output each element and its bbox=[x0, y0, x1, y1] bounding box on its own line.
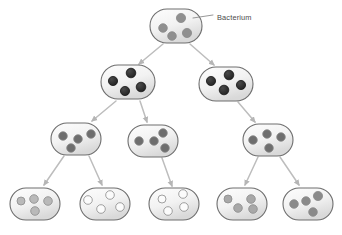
plasmid-dot-4 bbox=[31, 207, 40, 216]
plasmid-dot-4 bbox=[249, 205, 258, 214]
cell-membrane bbox=[149, 188, 199, 220]
plasmid-dot-2 bbox=[179, 190, 188, 199]
bacterium-label: Bacterium bbox=[217, 13, 252, 22]
cell-layer bbox=[10, 9, 333, 220]
cell-membrane bbox=[217, 188, 267, 220]
plasmid-dot-2 bbox=[234, 204, 243, 213]
plasmid-dot-3 bbox=[219, 85, 229, 95]
plasmid-dot-1 bbox=[17, 197, 25, 205]
cell-g2-1 bbox=[101, 65, 155, 99]
plasmid-dot-3 bbox=[164, 207, 173, 216]
plasmid-dot-3 bbox=[247, 195, 256, 204]
arrow-g3-3-to-g4-4 bbox=[245, 157, 258, 185]
plasmid-dot-3 bbox=[168, 32, 177, 41]
plasmid-dot-3 bbox=[97, 205, 106, 214]
plasmid-dot-4 bbox=[182, 28, 191, 37]
cell-g3-3 bbox=[243, 124, 293, 156]
plasmid-dot-3 bbox=[277, 133, 286, 142]
arrow-g3-2-to-g4-3 bbox=[162, 158, 172, 186]
arrow-g3-1-to-g4-2 bbox=[89, 156, 102, 185]
cell-g2-2 bbox=[199, 67, 253, 101]
plasmid-dot-2 bbox=[224, 70, 234, 80]
plasmid-dot-1 bbox=[108, 76, 117, 85]
annotation-layer: Bacterium bbox=[193, 13, 252, 22]
cell-g4-4 bbox=[217, 188, 267, 220]
cell-g4-1 bbox=[10, 188, 60, 220]
plasmid-dot-1 bbox=[159, 24, 168, 33]
plasmid-dot-4 bbox=[136, 82, 146, 92]
plasmid-dot-3 bbox=[120, 86, 129, 95]
plasmid-dot-1 bbox=[224, 195, 232, 203]
arrow-g2-1-to-g3-1 bbox=[92, 101, 116, 121]
cell-g4-2 bbox=[80, 188, 130, 220]
plasmid-dot-2 bbox=[176, 13, 185, 22]
plasmid-dot-4 bbox=[309, 208, 318, 217]
arrow-g1-1-to-g2-1 bbox=[139, 44, 163, 64]
plasmid-dot-3 bbox=[159, 129, 168, 138]
plasmid-dot-4 bbox=[116, 203, 125, 212]
arrow-g3-3-to-g4-5 bbox=[280, 157, 299, 185]
cell-g4-3 bbox=[149, 188, 199, 220]
arrow-g1-1-to-g2-2 bbox=[190, 44, 214, 65]
plasmid-dot-4 bbox=[161, 144, 170, 153]
plasmid-dot-2 bbox=[263, 130, 272, 139]
cell-g1-1 bbox=[150, 9, 202, 43]
plasmid-dot-1 bbox=[135, 137, 144, 146]
plasmid-dot-1 bbox=[206, 76, 215, 85]
plasmid-dot-1 bbox=[84, 196, 93, 205]
plasmid-dot-2 bbox=[126, 68, 136, 78]
cell-g3-1 bbox=[51, 123, 101, 155]
plasmid-dot-3 bbox=[313, 191, 322, 200]
figure-canvas: Bacterium bbox=[0, 0, 342, 235]
arrow-g3-1-to-g4-1 bbox=[44, 156, 64, 185]
plasmid-dot-4 bbox=[67, 144, 76, 153]
plasmid-dot-1 bbox=[59, 132, 68, 141]
plasmid-dot-4 bbox=[180, 203, 189, 212]
cell-g3-2 bbox=[128, 125, 178, 157]
plasmid-dot-3 bbox=[87, 130, 96, 139]
plasmid-dot-1 bbox=[158, 195, 166, 203]
bacterium-lineage-diagram: Bacterium bbox=[0, 0, 342, 235]
plasmid-dot-2 bbox=[74, 135, 83, 144]
plasmid-dot-2 bbox=[150, 137, 159, 146]
arrow-layer bbox=[44, 44, 299, 186]
plasmid-dot-2 bbox=[30, 195, 39, 204]
plasmid-dot-4 bbox=[236, 80, 245, 89]
cell-g4-5 bbox=[283, 188, 333, 220]
plasmid-dot-2 bbox=[302, 197, 311, 206]
plasmid-dot-1 bbox=[249, 136, 258, 145]
plasmid-dot-1 bbox=[290, 200, 299, 209]
arrow-g2-2-to-g3-3 bbox=[238, 102, 255, 122]
plasmid-dot-2 bbox=[106, 191, 115, 200]
plasmid-dot-3 bbox=[44, 197, 53, 206]
arrow-g2-1-to-g3-2 bbox=[140, 101, 147, 122]
plasmid-dot-4 bbox=[265, 144, 274, 153]
